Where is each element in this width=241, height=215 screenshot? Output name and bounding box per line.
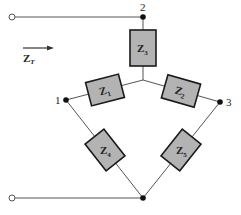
node-2-dot <box>140 14 146 20</box>
impedance-z2: Z2 <box>161 75 200 107</box>
node-3-label: 3 <box>226 96 232 108</box>
circuit-diagram: Z3 Z1 Z2 Z4 Z5 2 1 3 ZT <box>0 0 241 215</box>
node-3-dot <box>217 99 223 105</box>
top-terminal <box>9 14 15 20</box>
node-2-label: 2 <box>140 1 146 13</box>
node-1-label: 1 <box>55 94 61 106</box>
impedance-z5: Z5 <box>161 129 201 171</box>
zt-label: ZT <box>23 52 35 66</box>
impedance-z1: Z1 <box>86 74 125 106</box>
bottom-node-dot <box>140 195 146 201</box>
arrow-right-icon <box>47 46 54 51</box>
impedance-z4: Z4 <box>85 129 125 171</box>
bottom-terminal <box>9 195 15 201</box>
impedance-z3: Z3 <box>130 30 156 66</box>
input-impedance-indicator: ZT <box>23 46 54 67</box>
node-1-dot <box>63 97 69 103</box>
